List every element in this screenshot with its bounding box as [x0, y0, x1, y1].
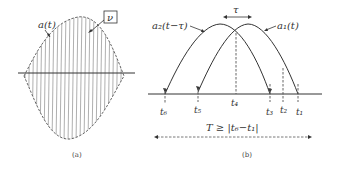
arrowhead-icon	[308, 135, 312, 139]
curve-a1	[198, 24, 298, 94]
arrowhead-icon	[154, 135, 158, 139]
caption-b: (b)	[242, 151, 252, 159]
time-markers	[165, 33, 298, 104]
carrier-oscillation	[24, 10, 122, 145]
panel-b: t₆ t₅ t₄ t₃ t₂ t₁ τ a₂(t−τ) a₁(t) T ≥ |t…	[148, 4, 322, 159]
curve-a1-pointer	[266, 26, 276, 30]
tau-label: τ	[233, 4, 239, 15]
t6-label: t₆	[160, 107, 168, 117]
curve-a2-pointer	[190, 26, 203, 31]
t4-label: t₄	[231, 98, 239, 108]
arrowhead-icon	[264, 28, 268, 31]
curve-a2-shifted	[165, 24, 270, 94]
panel-a: a(t) ν (a)	[18, 10, 135, 159]
envelope-label: a(t)	[38, 19, 56, 30]
t2-label: t₂	[280, 105, 288, 115]
t5-label: t₅	[194, 105, 202, 115]
arrowhead-icon	[248, 15, 252, 19]
figure: a(t) ν (a) t₆ t₅ t₄	[0, 0, 337, 169]
arrowhead-icon	[223, 15, 227, 19]
t1-label: t₁	[296, 107, 303, 117]
caption-a: (a)	[72, 151, 82, 159]
carrier-label: ν	[107, 12, 113, 23]
curve-a1-label: a₁(t)	[277, 20, 299, 31]
curve-a2-label: a₂(t−τ)	[152, 20, 188, 31]
duration-condition-label: T ≥ |t₆−t₁|	[206, 122, 259, 134]
t3-label: t₃	[266, 107, 274, 117]
